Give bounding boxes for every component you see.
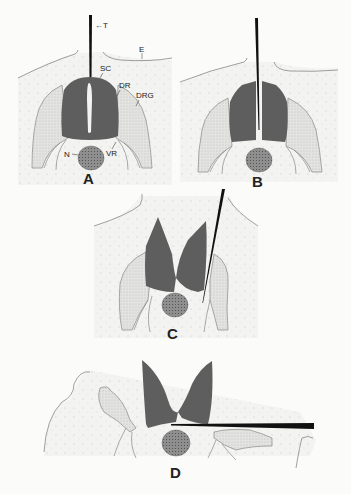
label-t: ←T (95, 21, 108, 30)
instrument-blade (89, 15, 92, 77)
panel-label-d: D (170, 464, 181, 481)
notochord (162, 293, 188, 317)
label-sc: SC (100, 64, 111, 73)
panel-label-b: B (252, 173, 263, 190)
label-drg: DRG (136, 91, 154, 100)
label-e: E (139, 45, 144, 54)
panel-label-a: A (83, 170, 94, 187)
spinal-cord-incision-diagram: ←T E SC DR DRG VR N A B (0, 0, 351, 494)
label-n: N (64, 150, 70, 159)
panel-label-c: C (167, 325, 178, 342)
notochord (78, 146, 104, 170)
label-vr: VR (106, 149, 117, 158)
notochord (246, 148, 272, 172)
label-dr: DR (119, 81, 131, 90)
notochord (162, 430, 190, 456)
